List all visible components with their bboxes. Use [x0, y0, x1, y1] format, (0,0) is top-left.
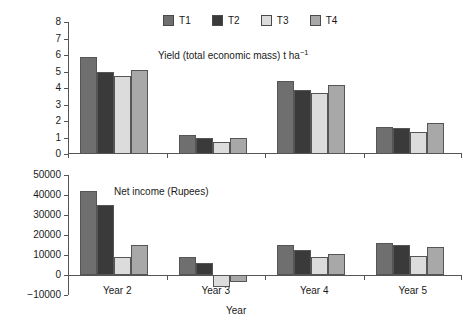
bar: [376, 127, 393, 154]
bar: [131, 245, 148, 275]
yield-x-tick: [461, 154, 462, 158]
income-y-tick: [64, 295, 68, 296]
yield-y-tick-label: 1: [55, 133, 61, 143]
bar: [376, 243, 393, 275]
bar: [213, 275, 230, 287]
yield-y-tick: [64, 22, 68, 23]
yield-y-tick-label: 5: [55, 67, 61, 77]
income-x-category-label: Year 2: [103, 286, 132, 296]
yield-y-tick-label: 3: [55, 100, 61, 110]
income-x-tick: [68, 276, 69, 280]
bar: [410, 132, 427, 154]
income-y-tick-label: 0: [55, 270, 61, 280]
yield-y-tick: [64, 121, 68, 122]
bar: [277, 81, 294, 154]
bar: [213, 142, 230, 154]
income-x-tick: [364, 276, 365, 280]
yield-y-tick: [64, 105, 68, 106]
bar: [294, 250, 311, 275]
income-y-tick-label: 10000: [33, 250, 61, 260]
yield-y-tick-label: 8: [55, 17, 61, 27]
figure-container: T1T2T3T4 Yield (total economic mass) t h…: [0, 0, 471, 327]
bar: [80, 191, 97, 275]
x-axis-title: Year: [226, 305, 246, 316]
bar: [328, 254, 345, 275]
bar: [328, 85, 345, 154]
yield-y-tick-label: 4: [55, 83, 61, 93]
bar: [410, 256, 427, 275]
bar: [393, 128, 410, 154]
bar: [427, 247, 444, 275]
yield-y-axis: [68, 22, 69, 154]
yield-x-tick: [68, 154, 69, 158]
yield-y-tick: [64, 138, 68, 139]
yield-x-tick: [167, 154, 168, 158]
yield-y-tick-label: 6: [55, 50, 61, 60]
income-x-category-label: Year 4: [300, 286, 329, 296]
income-plot-area: −1000001000020000300004000050000Year 2Ye…: [68, 175, 462, 295]
yield-y-tick: [64, 72, 68, 73]
income-x-category-label: Year 3: [201, 286, 230, 296]
panel-yield: Yield (total economic mass) t ha−1 01234…: [0, 8, 471, 158]
income-y-tick: [64, 175, 68, 176]
bar: [311, 93, 328, 154]
bar: [294, 90, 311, 154]
bar: [80, 57, 97, 154]
panel-income: Net income (Rupees) −1000001000020000300…: [0, 165, 471, 320]
yield-y-tick-label: 7: [55, 34, 61, 44]
yield-plot-area: 012345678: [68, 22, 462, 154]
bar: [311, 257, 328, 275]
yield-y-tick: [64, 55, 68, 56]
bar: [114, 76, 131, 154]
yield-x-tick: [265, 154, 266, 158]
income-y-tick: [64, 255, 68, 256]
bar: [196, 138, 213, 155]
income-y-tick: [64, 195, 68, 196]
yield-x-tick: [364, 154, 365, 158]
bar: [277, 245, 294, 275]
bar: [230, 138, 247, 155]
income-y-tick-label: −10000: [27, 290, 61, 300]
bar: [427, 123, 444, 154]
bar: [230, 275, 247, 282]
income-y-tick-label: 30000: [33, 210, 61, 220]
income-y-tick-label: 20000: [33, 230, 61, 240]
yield-y-tick: [64, 88, 68, 89]
income-x-tick: [265, 276, 266, 280]
bar: [114, 257, 131, 275]
bar: [97, 205, 114, 275]
income-y-tick-label: 40000: [33, 190, 61, 200]
income-y-tick: [64, 215, 68, 216]
yield-y-tick-label: 2: [55, 116, 61, 126]
income-y-tick-label: 50000: [33, 170, 61, 180]
income-x-tick: [461, 276, 462, 280]
income-y-tick: [64, 235, 68, 236]
income-x-tick: [167, 276, 168, 280]
bar: [97, 72, 114, 155]
yield-y-tick-label: 0: [55, 149, 61, 159]
bar: [393, 245, 410, 275]
bar: [179, 257, 196, 275]
bar: [196, 263, 213, 275]
yield-y-tick: [64, 39, 68, 40]
bar: [131, 70, 148, 154]
bar: [179, 135, 196, 154]
income-x-category-label: Year 5: [398, 286, 427, 296]
